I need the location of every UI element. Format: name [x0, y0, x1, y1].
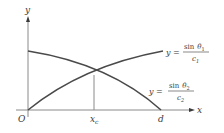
- x-axis-arrow-icon: [189, 108, 195, 112]
- svg-text:c2: c2: [177, 94, 184, 103]
- curve1-equation-label: y = sinθ1 c1: [165, 43, 209, 64]
- svg-text:c1: c1: [192, 55, 199, 64]
- x-axis-label: x: [197, 105, 202, 115]
- svg-text:sinθ2: sinθ2: [169, 82, 190, 91]
- d-label: d: [158, 114, 164, 124]
- xc-label: xc: [90, 114, 99, 125]
- curve2-equation-label: y = sinθ2 c2: [148, 82, 194, 103]
- y-axis-label: y: [24, 5, 31, 15]
- y-axis-arrow-icon: [26, 16, 30, 22]
- svg-text:y =: y =: [148, 87, 163, 96]
- svg-text:y =: y =: [165, 48, 180, 57]
- svg-text:sinθ1: sinθ1: [184, 43, 205, 52]
- curve-sin-theta1-over-c1: [28, 51, 163, 110]
- diagram-canvas: y x O xc d y = sinθ1 c1 y = sinθ2 c2: [0, 0, 224, 133]
- origin-label: O: [18, 114, 26, 124]
